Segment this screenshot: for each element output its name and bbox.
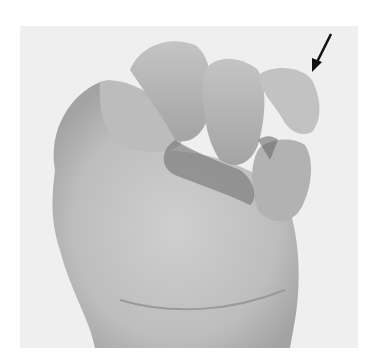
arrow-icon [0,0,371,361]
